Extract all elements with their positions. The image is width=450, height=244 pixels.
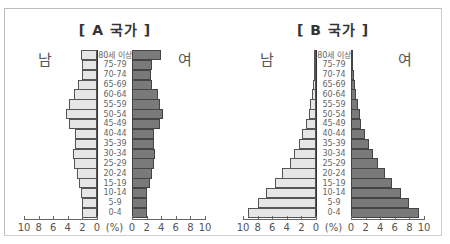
x-tick-label: 0: [94, 222, 100, 233]
female-bar: [351, 70, 354, 80]
age-group-label: 75-79: [317, 60, 351, 70]
x-tick: [176, 216, 177, 220]
x-tick-label: 0: [313, 222, 319, 233]
age-group-label: 15-19: [317, 179, 351, 189]
age-group-label: 60-64: [317, 90, 351, 100]
x-tick-label: 6: [269, 222, 275, 233]
male-bar: [266, 188, 316, 198]
x-tick-label: 10: [18, 222, 31, 233]
age-group-label: 45-49: [317, 119, 351, 129]
female-bar: [132, 149, 155, 159]
x-tick: [39, 216, 40, 220]
male-label: 남: [38, 48, 52, 69]
male-bar: [75, 139, 97, 149]
x-tick: [97, 216, 98, 220]
x-tick-label: 2: [298, 222, 304, 233]
x-tick: [351, 216, 352, 220]
male-bar: [81, 188, 97, 198]
age-group-label: 10-14: [317, 188, 351, 198]
x-tick-label: 10: [199, 222, 212, 233]
female-bar: [351, 139, 369, 149]
x-tick-label: 6: [392, 222, 398, 233]
x-tick: [190, 216, 191, 220]
x-tick: [24, 216, 25, 220]
male-bar: [310, 99, 316, 109]
age-group-label: 40-44: [98, 129, 132, 139]
age-group-label: 20-24: [317, 169, 351, 179]
female-bar: [351, 99, 358, 109]
male-bar: [74, 89, 97, 99]
age-group-label: 20-24: [98, 169, 132, 179]
female-bar: [132, 80, 152, 90]
age-group-label: 65-69: [317, 80, 351, 90]
male-bar: [69, 99, 97, 109]
x-tick-label: 8: [187, 222, 193, 233]
x-tick: [258, 216, 259, 220]
male-bar: [82, 198, 97, 208]
female-bar: [132, 139, 154, 149]
female-label: 여: [398, 48, 412, 69]
male-bar: [75, 129, 97, 139]
female-bar: [132, 60, 152, 70]
male-label: 남: [260, 48, 274, 69]
female-bar: [351, 109, 360, 119]
female-bar: [132, 178, 150, 188]
x-tick-label: 10: [237, 222, 250, 233]
female-label: 여: [178, 48, 192, 69]
x-tick-label: 10: [418, 222, 431, 233]
x-tick: [366, 216, 367, 220]
male-bar: [314, 70, 316, 80]
male-bar: [73, 149, 97, 159]
female-bar: [132, 168, 152, 178]
female-bar: [351, 89, 356, 99]
x-tick-label: 4: [65, 222, 71, 233]
x-tick: [380, 216, 381, 220]
x-tick-label: 2: [362, 222, 368, 233]
x-axis-unit: (%): [106, 222, 123, 233]
x-tick-label: 8: [254, 222, 260, 233]
x-tick-label: 8: [406, 222, 412, 233]
female-bar: [132, 198, 147, 208]
male-bar: [82, 208, 97, 218]
male-bar: [82, 60, 97, 70]
age-group-label: 50-54: [98, 110, 132, 120]
female-bar: [351, 119, 361, 129]
age-group-label: 50-54: [317, 110, 351, 120]
x-tick-label: 2: [79, 222, 85, 233]
male-bar: [290, 158, 316, 168]
male-bar: [74, 158, 97, 168]
age-group-label: 70-74: [317, 70, 351, 80]
male-bar: [312, 89, 316, 99]
chart-title: [ B 국가 ]: [297, 19, 369, 39]
x-tick: [316, 216, 317, 220]
male-bar: [282, 168, 316, 178]
age-group-label: 60-64: [98, 90, 132, 100]
age-group-label: 55-59: [98, 100, 132, 110]
x-tick-label: 0: [348, 222, 354, 233]
male-bar: [314, 60, 316, 70]
male-bar: [309, 109, 316, 119]
female-bar: [351, 129, 365, 139]
female-bar: [132, 99, 160, 109]
male-bar: [66, 109, 97, 119]
age-group-label: 80세 이상: [317, 51, 351, 61]
x-axis-female: [351, 219, 424, 220]
female-bar: [351, 158, 378, 168]
age-group-label: 75-79: [98, 60, 132, 70]
female-bar: [351, 178, 392, 188]
x-axis-male: [243, 219, 316, 220]
female-bar: [132, 109, 163, 119]
male-bar: [258, 198, 316, 208]
female-bar: [351, 80, 355, 90]
female-bar: [132, 158, 154, 168]
female-bar: [132, 119, 160, 129]
male-bar: [275, 178, 316, 188]
female-bar: [132, 89, 158, 99]
age-group-label: 65-69: [98, 80, 132, 90]
age-group-label: 70-74: [98, 70, 132, 80]
x-tick: [243, 216, 244, 220]
male-bar: [81, 50, 97, 60]
age-group-label: 25-29: [317, 159, 351, 169]
age-group-label: 30-34: [317, 149, 351, 159]
male-bar: [302, 129, 316, 139]
